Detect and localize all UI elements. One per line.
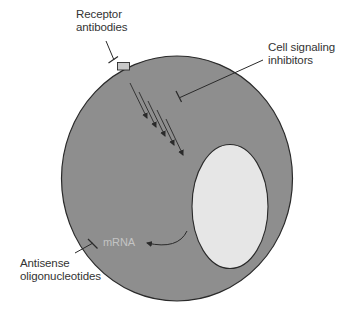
receptor-antibodies-label-line2: antibodies	[76, 21, 127, 34]
antisense-oligonucleotides-label: Antisense oligonucleotides	[20, 257, 101, 283]
cell-signaling-inhibitors-label: Cell signaling inhibitors	[268, 41, 335, 67]
receptor-antibodies-label-line1: Receptor	[76, 8, 127, 21]
antisense-oligonucleotides-label-line2: oligonucleotides	[20, 270, 101, 283]
nucleus	[192, 145, 268, 269]
receptor-antibody-inhibitor-icon	[106, 41, 118, 63]
receptor-antibodies-label: Receptor antibodies	[76, 8, 127, 34]
cell-signaling-inhibitors-label-line2: inhibitors	[268, 54, 335, 67]
mrna-label: mRNA	[103, 236, 135, 249]
membrane-receptor	[118, 63, 130, 71]
antisense-oligonucleotides-label-line1: Antisense	[20, 257, 101, 270]
cell-signaling-inhibitors-label-line1: Cell signaling	[268, 41, 335, 54]
